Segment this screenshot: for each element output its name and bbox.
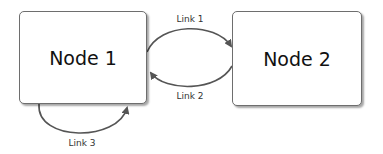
node-1[interactable]: Node 1: [19, 11, 147, 104]
link-3-label: Link 3: [68, 138, 95, 148]
link-3-edge[interactable]: [39, 104, 127, 133]
link-1-edge[interactable]: [147, 29, 231, 52]
node-1-label: Node 1: [49, 47, 117, 69]
link-2-edge[interactable]: [151, 66, 232, 86]
node-2[interactable]: Node 2: [232, 11, 362, 106]
link-2-label: Link 2: [176, 91, 203, 101]
link-1-label: Link 1: [176, 14, 203, 24]
node-2-label: Node 2: [263, 48, 331, 70]
